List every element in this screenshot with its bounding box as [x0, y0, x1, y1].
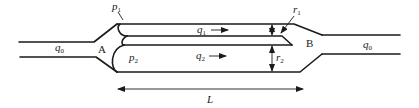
q0-inlet-label: q0: [55, 42, 64, 55]
r2-label: r2: [276, 52, 284, 65]
r1-dimension: [272, 16, 294, 35]
q1-label: q1: [197, 24, 206, 37]
upper-branch-pipe: [117, 24, 322, 45]
lower-branch-pipe: [112, 45, 322, 72]
q0-outlet-label: q0: [363, 39, 372, 52]
node-a-label: A: [98, 44, 106, 55]
p1-label: p1: [112, 1, 121, 14]
length-label: L: [207, 94, 213, 105]
r1-label: r1: [293, 4, 301, 17]
q2-label: q2: [196, 50, 205, 63]
outlet-pipe: [322, 35, 400, 54]
node-b-label: B: [306, 38, 313, 49]
p2-label: p2: [129, 52, 138, 65]
